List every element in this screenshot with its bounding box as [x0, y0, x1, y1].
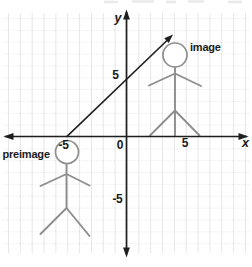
- image-head: [163, 43, 187, 67]
- image-label: image: [190, 41, 221, 53]
- x-axis-tick-neg5: -5: [58, 138, 69, 152]
- x-axis-tick-5: 5: [182, 136, 189, 150]
- coordinate-plane-figure: y x 5 -5 0 -5 5 preimage image: [0, 0, 252, 267]
- y-axis-tick-5: 5: [112, 68, 119, 82]
- x-axis-label: x: [241, 136, 250, 150]
- origin-tick: 0: [117, 138, 124, 152]
- y-axis-tick-neg5: -5: [112, 192, 123, 206]
- diagram-canvas: y x 5 -5 0 -5 5 preimage image: [0, 0, 252, 267]
- cropped-print-artifact: [104, 2, 242, 3]
- preimage-label: preimage: [3, 148, 50, 160]
- y-axis-label: y: [114, 11, 123, 25]
